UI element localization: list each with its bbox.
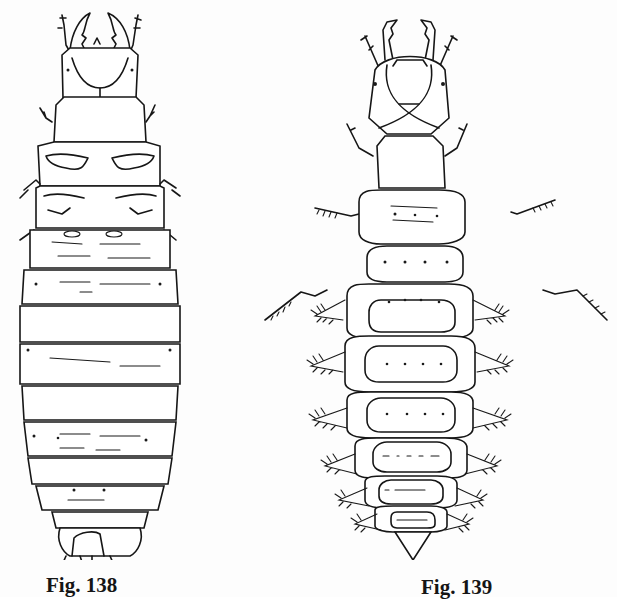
larva-illustration-138 <box>0 0 200 560</box>
figure-138: Fig. 138 <box>0 0 200 560</box>
figure-139: Fig. 139 <box>255 0 617 560</box>
figure-caption: Fig. 139 <box>421 575 492 600</box>
abdominal-segments <box>345 284 475 560</box>
larva-illustration-139 <box>255 0 617 560</box>
figure-caption: Fig. 138 <box>46 573 117 598</box>
